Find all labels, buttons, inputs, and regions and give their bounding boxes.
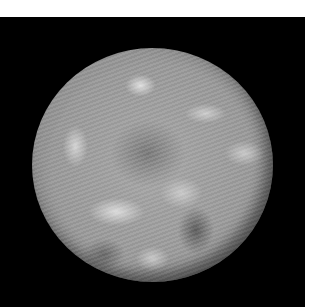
space-background [0,17,305,307]
cloud-texture [32,48,273,282]
planet-globe [32,48,273,282]
